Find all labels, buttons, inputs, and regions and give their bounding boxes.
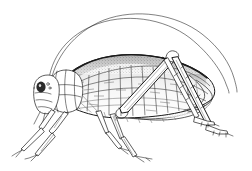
compound-eye bbox=[36, 82, 45, 93]
illustration-canvas: Katydid bbox=[0, 0, 252, 171]
katydid-illustration bbox=[0, 0, 252, 171]
